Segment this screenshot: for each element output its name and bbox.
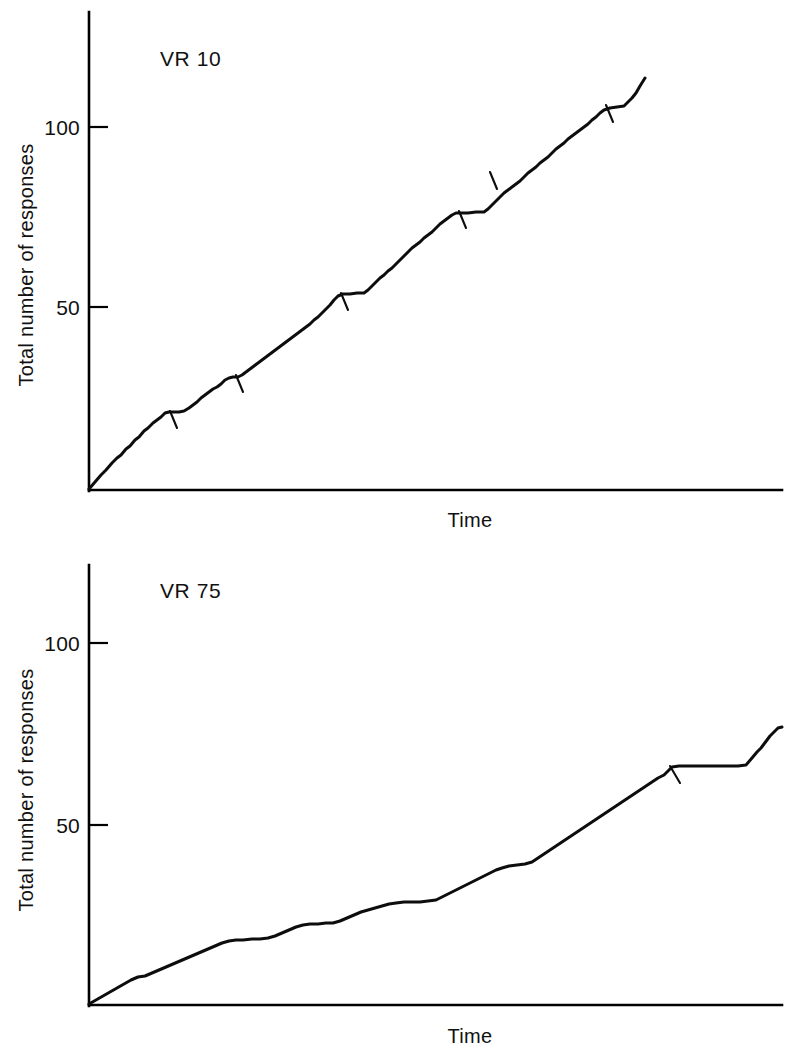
- vr75-hash-mark: [670, 766, 680, 783]
- vr10-y-axis-title: Total number of responses: [15, 143, 37, 386]
- vr75-x-axis-title: Time: [448, 1025, 493, 1047]
- vr10-x-axis-title: Time: [448, 509, 493, 531]
- vr75-y-axis-title: Total number of responses: [15, 668, 37, 911]
- panel-vr10: 100 50 VR 10 Total number of responses T…: [15, 12, 782, 531]
- vr75-cumulative-curve: [89, 727, 782, 1004]
- vr10-hash-mark: [490, 172, 497, 189]
- cumulative-records-figure: 100 50 VR 10 Total number of responses T…: [0, 0, 795, 1055]
- vr10-hash-mark: [341, 293, 348, 310]
- vr10-panel-label: VR 10: [160, 47, 221, 70]
- vr10-hash-mark: [170, 411, 177, 428]
- vr75-panel-label: VR 75: [160, 579, 221, 602]
- vr75-ytick-label-50: 50: [56, 814, 80, 837]
- panel-vr75: 100 50 VR 75 Total number of responses T…: [15, 565, 782, 1047]
- vr10-ytick-label-100: 100: [44, 116, 80, 139]
- vr10-cumulative-curve: [89, 78, 645, 489]
- vr75-ytick-label-100: 100: [44, 632, 80, 655]
- vr10-ytick-label-50: 50: [56, 296, 80, 319]
